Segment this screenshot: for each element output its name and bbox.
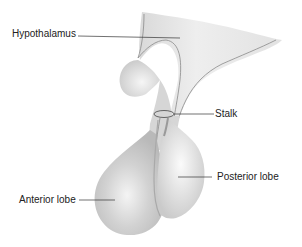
bulb-shape: [120, 60, 160, 97]
anterior-lobe-label: Anterior lobe: [19, 194, 76, 205]
posterior-lobe-label: Posterior lobe: [217, 171, 279, 182]
hypothalamus-label: Hypothalamus: [12, 28, 76, 39]
stalk-label: Stalk: [215, 108, 238, 119]
pituitary-diagram: Hypothalamus Stalk Posterior lobe Anteri…: [0, 0, 302, 247]
